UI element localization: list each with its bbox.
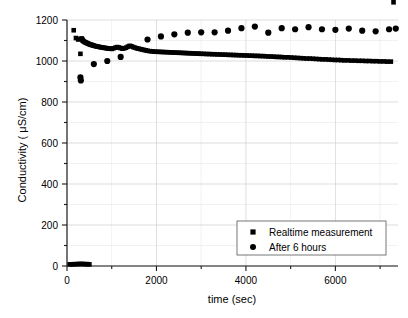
data-point-circle — [158, 33, 164, 39]
data-point-circle — [305, 24, 311, 30]
data-point-circle — [171, 31, 177, 37]
y-tick-label: 1000 — [36, 56, 59, 67]
x-axis-title: time (sec) — [208, 293, 256, 305]
data-point-circle — [393, 26, 399, 32]
legend-marker-circle — [250, 244, 256, 250]
legend-entry-label: After 6 hours — [269, 242, 326, 253]
y-axis-title: Conductivity ( μS/cm) — [16, 98, 28, 203]
data-point-circle — [78, 77, 84, 83]
data-point-circle — [238, 25, 244, 31]
data-point-circle — [144, 36, 150, 42]
x-tick-label: 6000 — [324, 275, 347, 286]
data-point-circle — [319, 26, 325, 32]
data-point-square — [389, 59, 394, 64]
y-tick-label: 200 — [41, 220, 58, 231]
y-tick-label: 1200 — [36, 15, 59, 26]
y-tick-label: 600 — [41, 138, 58, 149]
x-tick-label: 2000 — [145, 275, 168, 286]
data-point-square — [391, 0, 396, 5]
data-point-circle — [225, 28, 231, 34]
data-point-square-baseline — [87, 262, 92, 267]
data-point-circle — [386, 26, 392, 32]
data-point-square — [71, 28, 76, 33]
data-point-circle — [198, 29, 204, 35]
x-tick-labels: 0200040006000 — [64, 275, 347, 286]
legend-entry-label: Realtime measurement — [269, 227, 373, 238]
x-tick-label: 4000 — [235, 275, 258, 286]
data-point-square — [78, 52, 83, 57]
data-point-circle — [373, 28, 379, 34]
data-point-circle — [212, 29, 218, 35]
chart-figure: 0200040006000 020040060080010001200 Real… — [0, 0, 408, 318]
legend-marker-square — [250, 229, 255, 234]
data-point-circle — [118, 54, 124, 60]
y-tick-label: 0 — [52, 261, 58, 272]
data-point-circle — [252, 23, 258, 29]
y-tick-labels: 020040060080010001200 — [36, 15, 59, 272]
data-point-circle — [359, 28, 365, 34]
data-point-circle — [292, 26, 298, 32]
y-tick-label: 800 — [41, 97, 58, 108]
legend-box: Realtime measurementAfter 6 hours — [237, 221, 386, 255]
data-point-circle — [104, 58, 110, 64]
data-point-circle — [346, 26, 352, 32]
conductivity-scatter-chart: 0200040006000 020040060080010001200 Real… — [0, 0, 408, 318]
data-point-circle — [91, 61, 97, 67]
y-tick-label: 400 — [41, 179, 58, 190]
data-point-circle — [265, 30, 271, 36]
data-point-circle — [185, 30, 191, 36]
data-point-circle — [279, 25, 285, 31]
x-tick-label: 0 — [64, 275, 70, 286]
data-point-circle — [332, 27, 338, 33]
